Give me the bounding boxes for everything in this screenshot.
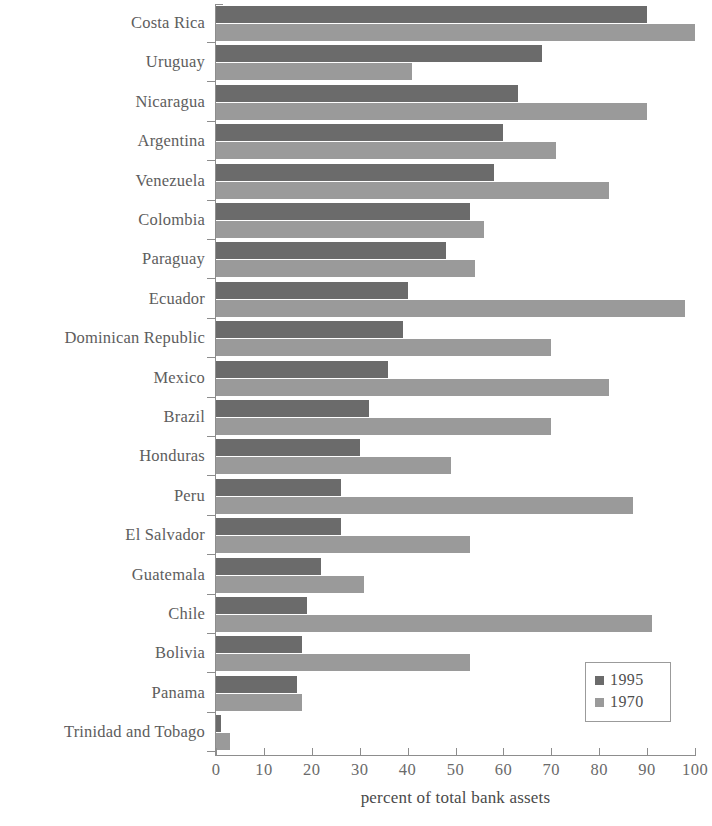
- x-axis-tick: [551, 748, 552, 756]
- x-axis-tick: [360, 748, 361, 756]
- bar-1995: [216, 203, 470, 220]
- x-axis-tick: [312, 748, 313, 756]
- bar-1970: [216, 536, 470, 553]
- x-axis-tick-label: 50: [436, 760, 476, 780]
- bar-1995: [216, 636, 302, 653]
- y-axis-tick: [207, 712, 216, 713]
- bar-1995: [216, 518, 341, 535]
- bar-1970: [216, 654, 470, 671]
- category-label: Mexico: [0, 368, 205, 388]
- bar-1970: [216, 300, 685, 317]
- legend-swatch-icon-1995: [595, 676, 604, 685]
- bar-1995: [216, 400, 369, 417]
- bar-1995: [216, 124, 503, 141]
- bar-1995: [216, 282, 408, 299]
- x-axis-title: percent of total bank assets: [216, 788, 695, 808]
- x-axis-tick-label: 40: [388, 760, 428, 780]
- bar-1970: [216, 694, 302, 711]
- bar-1970: [216, 457, 451, 474]
- x-axis-tick-label: 80: [579, 760, 619, 780]
- x-axis-tick-label: 100: [675, 760, 712, 780]
- y-axis-top-cap: [215, 4, 223, 5]
- y-axis-tick: [207, 672, 216, 673]
- category-label: Venezuela: [0, 171, 205, 191]
- bar-1970: [216, 615, 652, 632]
- category-label: Trinidad and Tobago: [0, 722, 205, 742]
- category-label: Honduras: [0, 446, 205, 466]
- category-label: Ecuador: [0, 289, 205, 309]
- x-axis-tick: [599, 748, 600, 756]
- x-axis-tick-label: 20: [292, 760, 332, 780]
- category-label: Panama: [0, 683, 205, 703]
- bar-1995: [216, 45, 542, 62]
- x-axis-tick: [408, 748, 409, 756]
- bar-1995: [216, 715, 221, 732]
- bar-1970: [216, 103, 647, 120]
- bar-1995: [216, 6, 647, 23]
- x-axis-tick-label: 30: [340, 760, 380, 780]
- y-axis-tick: [207, 357, 216, 358]
- bar-1970: [216, 182, 609, 199]
- category-label: Argentina: [0, 131, 205, 151]
- y-axis-tick: [207, 751, 216, 752]
- category-label: Colombia: [0, 210, 205, 230]
- y-axis-tick: [207, 436, 216, 437]
- bar-1995: [216, 479, 341, 496]
- bar-1995: [216, 676, 297, 693]
- x-axis-tick-label: 0: [196, 760, 236, 780]
- bar-1970: [216, 576, 364, 593]
- x-axis-tick: [503, 748, 504, 756]
- y-axis-tick: [207, 278, 216, 279]
- bar-1970: [216, 379, 609, 396]
- bar-1995: [216, 164, 494, 181]
- bar-1995: [216, 439, 360, 456]
- y-axis-tick: [207, 200, 216, 201]
- bar-1995: [216, 85, 518, 102]
- y-axis-tick: [207, 594, 216, 595]
- x-axis-tick: [456, 748, 457, 756]
- y-axis-tick: [207, 633, 216, 634]
- y-axis-tick: [207, 81, 216, 82]
- y-axis-tick: [207, 239, 216, 240]
- bar-1995: [216, 242, 446, 259]
- chart-legend: 1995 1970: [585, 662, 671, 722]
- bar-1970: [216, 497, 633, 514]
- legend-item-1995: 1995: [595, 669, 670, 691]
- bar-1970: [216, 733, 230, 750]
- bar-1995: [216, 558, 321, 575]
- bar-1970: [216, 339, 551, 356]
- x-axis-tick-label: 60: [483, 760, 523, 780]
- bar-1970: [216, 260, 475, 277]
- x-axis-tick-label: 10: [244, 760, 284, 780]
- x-axis-tick-label: 90: [627, 760, 667, 780]
- bar-1970: [216, 63, 412, 80]
- x-axis-tick: [695, 748, 696, 756]
- category-label: El Salvador: [0, 525, 205, 545]
- y-axis-tick: [207, 318, 216, 319]
- y-axis-tick: [207, 515, 216, 516]
- legend-item-1970: 1970: [595, 691, 670, 713]
- bar-1970: [216, 418, 551, 435]
- y-axis-tick: [207, 42, 216, 43]
- bar-1970: [216, 142, 556, 159]
- category-label: Nicaragua: [0, 92, 205, 112]
- y-axis-tick: [207, 160, 216, 161]
- x-axis-tick: [647, 748, 648, 756]
- bar-1970: [216, 221, 484, 238]
- y-axis-tick: [207, 475, 216, 476]
- legend-label-1995: 1995: [610, 671, 644, 689]
- x-axis-tick: [264, 748, 265, 756]
- legend-swatch-icon-1970: [595, 698, 604, 707]
- x-axis-tick-label: 70: [531, 760, 571, 780]
- category-label: Uruguay: [0, 52, 205, 72]
- bar-1995: [216, 597, 307, 614]
- category-label: Brazil: [0, 407, 205, 427]
- bar-1995: [216, 321, 403, 338]
- category-label: Guatemala: [0, 565, 205, 585]
- y-axis-tick: [207, 397, 216, 398]
- y-axis-tick: [207, 554, 216, 555]
- category-label: Peru: [0, 486, 205, 506]
- category-label: Chile: [0, 604, 205, 624]
- legend-label-1970: 1970: [610, 693, 644, 711]
